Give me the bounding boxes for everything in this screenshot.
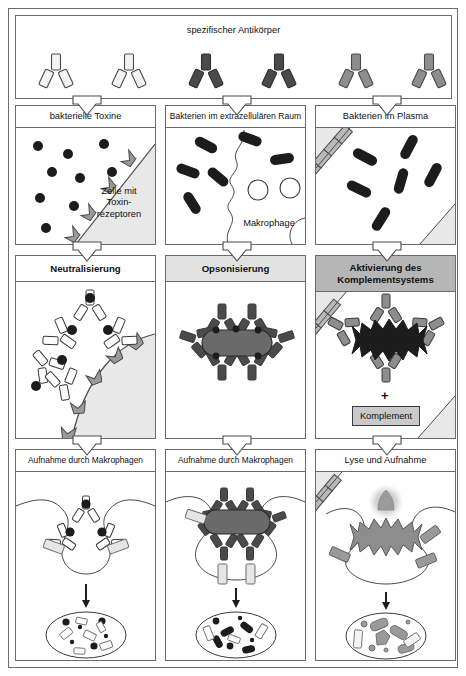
- panel-uptake-neutralized: Aufnahme durch Makrophagen: [15, 449, 156, 661]
- arrow-neutralisierung-to-uptake: [69, 435, 105, 457]
- toxin-cell-label: Zelle mit Toxin- rezeptoren: [86, 186, 152, 220]
- diagram-frame: spezifischer Antikörper: [8, 8, 458, 668]
- komplement-box: Komplement: [352, 406, 420, 426]
- arrow-col1-to-neutralisierung: [69, 241, 105, 263]
- panel-neutralisierung-body: [16, 282, 155, 438]
- phagocyte-uptake-scene-1: [16, 472, 155, 660]
- arrow-komplement-to-lyse: [369, 435, 405, 457]
- antibody-group-col2: [184, 52, 314, 94]
- antibody-group-col1: [34, 52, 164, 94]
- antibody-group-col3: [334, 52, 464, 94]
- panel-komplementaktivierung: Aktivierung des Komplementsystems: [315, 255, 456, 439]
- plus-sign: +: [381, 388, 389, 403]
- panel-antigen-extracellular: Bakterien im extrazellulären Raum: [165, 105, 306, 245]
- arrow-banner-to-col3: [369, 95, 405, 117]
- top-banner-title: spezifischer Antikörper: [16, 25, 451, 35]
- panel-antigen-extracellular-body: Makrophage: [166, 128, 305, 244]
- arrow-col3-to-komplement: [369, 241, 405, 263]
- panel-top-banner: spezifischer Antikörper: [15, 15, 452, 99]
- panel-uptake-opsonized-body: [166, 472, 305, 660]
- neutralisation-scene: [16, 282, 155, 438]
- lysis-uptake-scene: [316, 472, 455, 660]
- arrow-opsonisierung-to-uptake: [219, 435, 255, 457]
- panel-lyse-und-aufnahme: Lyse und Aufnahme: [315, 449, 456, 661]
- panel-uptake-opsonized: Aufnahme durch Makrophagen: [165, 449, 306, 661]
- arrow-banner-to-col2: [219, 95, 255, 117]
- arrow-col2-to-opsonisierung: [219, 241, 255, 263]
- panel-neutralisierung: Neutralisierung: [15, 255, 156, 439]
- panel-antigen-toxins-body: Zelle mit Toxin- rezeptoren: [16, 128, 155, 244]
- phagocyte-uptake-scene-2: [166, 472, 305, 660]
- panel-uptake-neutralized-body: [16, 472, 155, 660]
- panel-opsonisierung-body: [166, 282, 305, 438]
- panel-komplementaktivierung-body: + Komplement: [316, 292, 455, 438]
- panel-lyse-und-aufnahme-body: [316, 472, 455, 660]
- panel-opsonisierung: Opsonisierung: [165, 255, 306, 439]
- panel-antigen-plasma: Bakterien im Plasma: [315, 105, 456, 245]
- macrophage-label: Makrophage: [236, 218, 302, 229]
- opsonisation-scene: [166, 282, 305, 438]
- panel-antigen-plasma-body: [316, 128, 455, 244]
- panel-antigen-toxins: bakterielle Toxine: [15, 105, 156, 245]
- plasma-vessel-scene: [316, 128, 455, 244]
- arrow-banner-to-col1: [69, 95, 105, 117]
